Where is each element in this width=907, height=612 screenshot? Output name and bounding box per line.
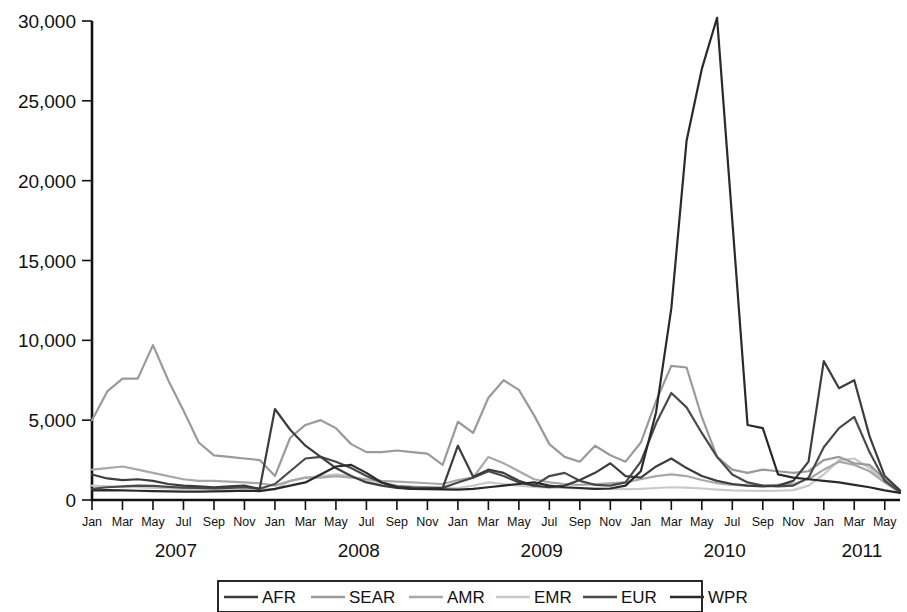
x-axis-tick-label: Jul: [175, 515, 191, 529]
y-axis-tick-label: 15,000: [18, 251, 76, 272]
x-axis-tick-label: Jan: [631, 515, 651, 529]
x-axis-tick-label: Jan: [82, 515, 102, 529]
x-axis-tick-label: Jan: [265, 515, 285, 529]
y-axis-tick-marks: [82, 21, 92, 500]
x-axis-tick-label: Mar: [661, 515, 683, 529]
x-axis-tick-label: May: [690, 515, 714, 529]
series-line-eur: [92, 393, 900, 492]
y-axis-tick-label: 0: [65, 490, 76, 511]
x-axis-tick-label: May: [324, 515, 348, 529]
x-axis-tick-label: May: [141, 515, 165, 529]
chart-series-group: [92, 18, 900, 493]
series-line-wpr: [92, 18, 900, 493]
legend-label-wpr: WPR: [708, 588, 748, 607]
series-line-sear: [92, 345, 900, 491]
x-axis-tick-label: Jul: [358, 515, 374, 529]
y-axis-tick-label: 20,000: [18, 171, 76, 192]
legend-label-afr: AFR: [262, 588, 296, 607]
chart-axes: [92, 21, 900, 500]
y-axis-tick-label: 10,000: [18, 330, 76, 351]
x-axis-tick-label: Sep: [203, 515, 225, 529]
x-axis-tick-label: Nov: [782, 515, 805, 529]
x-axis-year-label: 2011: [841, 540, 882, 561]
x-axis-year-labels: 20072008200920102011: [155, 540, 883, 561]
x-axis-tick-label: Mar: [295, 515, 317, 529]
y-axis-tick-label: 5,000: [28, 410, 76, 431]
line-chart: 30,00025,00020,00015,00010,0005,0000 Jan…: [0, 0, 907, 612]
x-axis-tick-label: Jul: [724, 515, 740, 529]
x-axis-tick-label: Jan: [448, 515, 468, 529]
x-axis-year-label: 2009: [521, 540, 563, 561]
y-axis-tick-labels: 30,00025,00020,00015,00010,0005,0000: [18, 11, 76, 511]
x-axis-tick-label: Sep: [752, 515, 774, 529]
x-axis-tick-label: Mar: [478, 515, 500, 529]
legend-label-sear: SEAR: [349, 588, 395, 607]
x-axis-year-label: 2007: [155, 540, 197, 561]
x-axis-tick-label: Nov: [599, 515, 622, 529]
legend-label-emr: EMR: [534, 588, 572, 607]
x-axis-tick-labels: JanMarMayJulSepNovJanMarMayJulSepNovJanM…: [82, 515, 897, 529]
x-axis-tick-label: Nov: [416, 515, 439, 529]
legend-label-eur: EUR: [621, 588, 657, 607]
x-axis-tick-label: May: [507, 515, 531, 529]
x-axis-tick-label: Jul: [541, 515, 557, 529]
x-axis-tick-label: Sep: [386, 515, 408, 529]
legend-label-amr: AMR: [447, 588, 485, 607]
y-axis-tick-label: 25,000: [18, 91, 76, 112]
x-axis-tick-label: Sep: [569, 515, 591, 529]
x-axis-tick-label: Mar: [112, 515, 134, 529]
x-axis-tick-label: Jan: [814, 515, 834, 529]
x-axis-tick-label: May: [873, 515, 897, 529]
x-axis-year-label: 2010: [704, 540, 746, 561]
y-axis-tick-label: 30,000: [18, 11, 76, 32]
chart-legend: AFRSEARAMREMREURWPR: [218, 581, 748, 612]
chart-svg: 30,00025,00020,00015,00010,0005,0000 Jan…: [0, 0, 907, 612]
x-axis-tick-label: Mar: [843, 515, 865, 529]
x-axis-tick-label: Nov: [233, 515, 256, 529]
x-axis-year-label: 2008: [338, 540, 380, 561]
x-axis-tick-marks: [92, 500, 885, 510]
